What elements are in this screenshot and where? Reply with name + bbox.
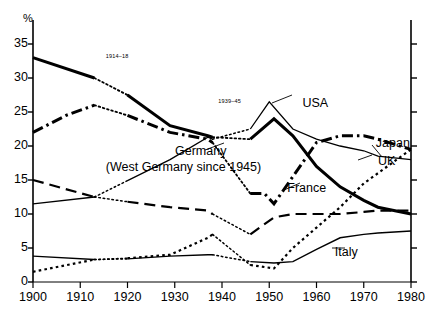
label-france: France	[287, 181, 326, 195]
series-path-france	[94, 197, 127, 202]
label-usa: USA	[302, 96, 328, 110]
x-tick-label: 1900	[10, 290, 56, 304]
series-path-france	[33, 180, 94, 197]
label-uk: UK	[378, 154, 395, 168]
series-path-uk	[33, 58, 94, 78]
series-path-usa	[33, 197, 94, 204]
label-japan: Japan	[376, 136, 410, 150]
x-tick-label: 1950	[246, 290, 292, 304]
label-italy: Italy	[335, 245, 358, 259]
y-tick-label: 0	[2, 274, 28, 288]
series-path-japan	[33, 260, 94, 272]
x-tick-label: 1940	[199, 290, 245, 304]
y-tick-label: 5	[2, 240, 28, 254]
x-tick-label: 1960	[294, 290, 340, 304]
x-tick-label: 1910	[57, 290, 103, 304]
y-tick-label: 30	[2, 70, 28, 84]
series-path-italy	[250, 231, 411, 263]
x-tick-label: 1930	[152, 290, 198, 304]
label-leader-line	[272, 95, 292, 103]
series-path-italy	[213, 255, 251, 262]
series-path-germany	[33, 105, 94, 132]
series-path-italy	[33, 256, 94, 259]
chart-container: % 05101520253035 19001910192019301940195…	[0, 0, 432, 320]
y-tick-label: 10	[2, 206, 28, 220]
y-tick-label: 15	[2, 172, 28, 186]
y-tick-label: 20	[2, 138, 28, 152]
label-germany-note: (West Germany since 1945)	[106, 160, 261, 174]
x-tick-label: 1920	[105, 290, 151, 304]
series-path-france	[250, 211, 411, 235]
series-path-usa	[250, 102, 411, 160]
x-tick-label: 1980	[388, 290, 432, 304]
series-path-france	[128, 202, 213, 214]
series-path-usa	[94, 181, 127, 197]
wwi-label: 1914–18	[106, 53, 129, 59]
series-path-uk	[94, 78, 127, 95]
x-tick-label: 1970	[341, 290, 387, 304]
label-leader-line	[358, 155, 372, 160]
y-axis-unit-label: %	[23, 12, 33, 24]
wwii-label: 1939–45	[218, 98, 241, 104]
series-path-germany	[94, 105, 127, 115]
y-tick-label: 35	[2, 36, 28, 50]
series-path-germany	[128, 115, 213, 142]
series-path-italy	[94, 259, 127, 260]
series-path-france	[213, 214, 251, 234]
label-germany: Germany	[175, 144, 226, 158]
y-tick-label: 25	[2, 104, 28, 118]
